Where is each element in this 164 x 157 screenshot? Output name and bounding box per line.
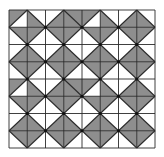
vertex-dot [99,112,102,115]
vertex-dot [135,112,138,115]
vertex-dot [44,129,47,132]
vertex-dot [99,43,102,46]
vertex-dot [80,60,83,63]
vertex-dot [80,129,83,132]
vertex-dot [117,95,120,98]
vertex-dot [99,77,102,80]
vertex-dot [44,95,47,98]
vertex-dot [135,77,138,80]
diamond-grid-figure [0,0,164,157]
vertex-dot [44,60,47,63]
triangle-grid [0,0,164,157]
vertex-dot [117,60,120,63]
vertex-dot [62,43,65,46]
vertex-dot [26,112,29,115]
vertex-dot [80,26,83,29]
vertex-dot [80,95,83,98]
vertex-dot [44,26,47,29]
vertex-dot [62,77,65,80]
vertex-dot [117,129,120,132]
vertex-dot [26,77,29,80]
vertex-dot [135,43,138,46]
vertex-dot [62,112,65,115]
vertex-dot [117,26,120,29]
vertex-dot [26,43,29,46]
